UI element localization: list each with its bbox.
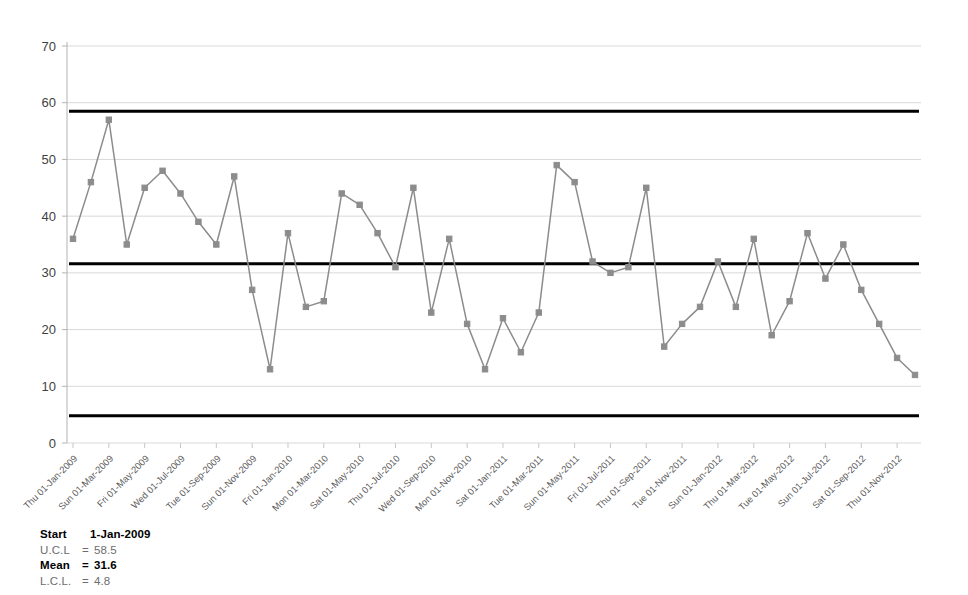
data-point-marker bbox=[912, 372, 917, 377]
data-point-marker bbox=[303, 304, 308, 309]
data-point-marker bbox=[751, 236, 756, 241]
data-point-marker bbox=[876, 321, 881, 326]
data-point-marker bbox=[894, 355, 899, 360]
chart-canvas: Thu 01-Jan-2009Sun 01-Mar-2009Fri 01-May… bbox=[0, 0, 968, 595]
control-chart: Thu 01-Jan-2009Sun 01-Mar-2009Fri 01-May… bbox=[0, 0, 968, 595]
data-point-marker bbox=[500, 316, 505, 321]
data-point-marker bbox=[160, 168, 165, 173]
y-tick-label-70: 70 bbox=[42, 39, 56, 54]
data-point-marker bbox=[339, 191, 344, 196]
lcl-label: L.C.L. bbox=[40, 574, 82, 590]
ucl-label: U.C.L bbox=[40, 543, 82, 559]
data-point-marker bbox=[608, 270, 613, 275]
y-tick-label-40: 40 bbox=[42, 209, 56, 224]
data-point-marker bbox=[142, 185, 147, 190]
data-point-marker bbox=[464, 321, 469, 326]
data-series-group bbox=[70, 117, 917, 378]
control-limits-legend: Start 1-Jan-2009 U.C.L = 58.5 Mean = 31.… bbox=[40, 527, 150, 589]
y-tick-label-20: 20 bbox=[42, 322, 56, 337]
start-value: 1-Jan-2009 bbox=[82, 527, 150, 543]
data-point-marker bbox=[787, 299, 792, 304]
data-point-marker bbox=[70, 236, 75, 241]
data-point-marker bbox=[644, 185, 649, 190]
gridlines-group bbox=[67, 46, 921, 443]
mean-value: 31.6 bbox=[94, 558, 117, 574]
data-point-marker bbox=[626, 264, 631, 269]
data-point-marker bbox=[196, 219, 201, 224]
legend-row-ucl: U.C.L = 58.5 bbox=[40, 543, 150, 559]
y-tick-label-60: 60 bbox=[42, 95, 56, 110]
data-point-marker bbox=[178, 191, 183, 196]
data-point-marker bbox=[267, 367, 272, 372]
data-point-marker bbox=[536, 310, 541, 315]
legend-row-start: Start 1-Jan-2009 bbox=[40, 527, 150, 543]
ucl-equals: = bbox=[82, 543, 94, 559]
data-point-marker bbox=[715, 259, 720, 264]
data-point-marker bbox=[393, 264, 398, 269]
control-limits-group bbox=[69, 111, 919, 416]
data-point-marker bbox=[124, 242, 129, 247]
y-tick-label-10: 10 bbox=[42, 379, 56, 394]
data-point-marker bbox=[375, 230, 380, 235]
data-point-marker bbox=[679, 321, 684, 326]
data-point-marker bbox=[482, 367, 487, 372]
start-label: Start bbox=[40, 527, 82, 543]
y-axis-labels-group: 010203040506070 bbox=[42, 39, 56, 451]
data-point-marker bbox=[232, 174, 237, 179]
data-point-marker bbox=[429, 310, 434, 315]
data-point-marker bbox=[321, 299, 326, 304]
data-point-marker bbox=[88, 179, 93, 184]
data-point-marker bbox=[249, 287, 254, 292]
data-point-marker bbox=[697, 304, 702, 309]
x-axis-labels-group: Thu 01-Jan-2009Sun 01-Mar-2009Fri 01-May… bbox=[21, 453, 903, 514]
data-point-marker bbox=[661, 344, 666, 349]
legend-row-lcl: L.C.L. = 4.8 bbox=[40, 574, 150, 590]
data-point-marker bbox=[106, 117, 111, 122]
data-point-marker bbox=[518, 350, 523, 355]
legend-row-mean: Mean = 31.6 bbox=[40, 558, 150, 574]
data-point-marker bbox=[733, 304, 738, 309]
data-point-marker bbox=[769, 333, 774, 338]
data-point-marker bbox=[841, 242, 846, 247]
data-point-marker bbox=[447, 236, 452, 241]
y-tick-label-50: 50 bbox=[42, 152, 56, 167]
y-tick-label-30: 30 bbox=[42, 265, 56, 280]
data-point-marker bbox=[859, 287, 864, 292]
mean-label: Mean bbox=[40, 558, 82, 574]
data-point-marker bbox=[285, 230, 290, 235]
data-point-marker bbox=[805, 230, 810, 235]
data-point-marker bbox=[554, 162, 559, 167]
ucl-value: 58.5 bbox=[94, 543, 117, 559]
data-point-marker bbox=[823, 276, 828, 281]
data-point-marker bbox=[411, 185, 416, 190]
y-tick-label-0: 0 bbox=[49, 436, 56, 451]
lcl-value: 4.8 bbox=[94, 574, 110, 590]
data-point-marker bbox=[572, 179, 577, 184]
data-point-marker bbox=[590, 259, 595, 264]
lcl-equals: = bbox=[82, 574, 94, 590]
mean-equals: = bbox=[82, 558, 94, 574]
data-point-marker bbox=[214, 242, 219, 247]
data-line bbox=[73, 120, 915, 375]
data-point-marker bbox=[357, 202, 362, 207]
